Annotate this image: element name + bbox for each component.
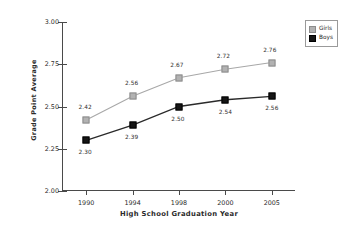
marker-boys	[83, 137, 90, 144]
x-tick-label: 2005	[264, 199, 280, 207]
marker-girls	[129, 93, 136, 100]
y-tick-label: 2.75	[35, 60, 59, 68]
y-tick-label: 2.00	[35, 187, 59, 195]
y-tick-label: 2.50	[35, 103, 59, 111]
point-label-boys: 2.39	[125, 134, 138, 140]
marker-boys	[129, 122, 136, 129]
legend-item-label: Girls	[319, 26, 332, 32]
point-label-boys: 2.30	[79, 149, 92, 155]
marker-girls	[176, 74, 183, 81]
y-tick-label: 3.00	[35, 18, 59, 26]
y-tick-label: 2.25	[35, 145, 59, 153]
x-tick-label: 1998	[171, 199, 187, 207]
marker-girls	[83, 117, 90, 124]
x-axis-title: High School Graduation Year	[63, 210, 295, 218]
marker-boys	[222, 96, 229, 103]
y-tick-inner	[63, 191, 67, 192]
chart-container: Grade Point Average 2.002.252.502.753.00…	[0, 0, 358, 232]
marker-girls	[268, 59, 275, 66]
point-label-girls: 2.56	[125, 80, 138, 86]
x-tick-label: 1994	[124, 199, 140, 207]
legend-item-boys[interactable]: Boys	[309, 34, 333, 42]
chart-legend: GirlsBoys	[305, 20, 338, 47]
legend-item-label: Boys	[319, 35, 333, 41]
x-tick-label: 2000	[217, 199, 233, 207]
x-tick-label: 1990	[78, 199, 94, 207]
legend-item-girls[interactable]: Girls	[309, 25, 333, 33]
point-label-boys: 2.56	[265, 105, 278, 111]
marker-boys	[268, 93, 275, 100]
point-label-girls: 2.72	[217, 53, 230, 59]
point-label-girls: 2.76	[263, 47, 276, 53]
legend-swatch-icon	[309, 26, 316, 33]
line-girls	[86, 63, 272, 120]
point-label-girls: 2.42	[79, 104, 92, 110]
legend-swatch-icon	[309, 35, 316, 42]
plot-area: 2.002.252.502.753.00 1990199419982000200…	[63, 22, 295, 190]
marker-boys	[176, 103, 183, 110]
point-label-boys: 2.54	[219, 109, 232, 115]
marker-girls	[222, 66, 229, 73]
point-label-girls: 2.67	[170, 62, 183, 68]
point-label-boys: 2.50	[171, 116, 184, 122]
